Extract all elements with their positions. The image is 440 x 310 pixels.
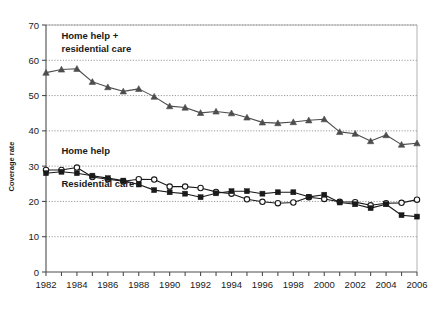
- data-point: [74, 165, 79, 170]
- data-point: [275, 200, 280, 205]
- data-point: [244, 197, 249, 202]
- data-point: [44, 171, 49, 176]
- x-tick-label-1998: 1998: [283, 279, 304, 290]
- data-point: [74, 171, 79, 176]
- y-tick-label-70: 70: [28, 20, 39, 31]
- y-tick-label-20: 20: [28, 196, 39, 207]
- chart-container: 0102030405060701982198419861988199019921…: [0, 0, 440, 310]
- data-point: [198, 185, 203, 190]
- data-point: [183, 191, 188, 196]
- data-point: [383, 132, 389, 138]
- annotation-top-series: Home help +: [61, 30, 118, 41]
- annotation-top-series: residential care: [61, 43, 131, 54]
- y-tick-label-40: 40: [28, 125, 39, 136]
- data-point: [322, 192, 327, 197]
- x-tick-label-1992: 1992: [190, 279, 211, 290]
- data-point: [353, 202, 358, 207]
- data-point: [306, 194, 311, 199]
- annotation-residential-care: Residential care: [61, 178, 134, 189]
- y-tick-label-50: 50: [28, 90, 39, 101]
- annotation-home-help: Home help: [61, 145, 110, 156]
- data-point: [260, 199, 265, 204]
- data-point: [198, 195, 203, 200]
- data-point: [229, 189, 234, 194]
- y-tick-label-30: 30: [28, 161, 39, 172]
- data-point: [415, 214, 420, 219]
- data-point: [182, 184, 187, 189]
- x-tick-label-2000: 2000: [314, 279, 335, 290]
- y-tick-label-60: 60: [28, 55, 39, 66]
- x-tick-label-1990: 1990: [159, 279, 180, 290]
- data-point: [368, 206, 373, 211]
- data-point: [399, 200, 404, 205]
- y-tick-label-10: 10: [28, 231, 39, 242]
- x-tick-label-1988: 1988: [128, 279, 149, 290]
- series-1: [43, 66, 420, 148]
- data-point: [214, 191, 219, 196]
- data-point: [291, 190, 296, 195]
- data-point: [244, 189, 249, 194]
- data-point: [399, 213, 404, 218]
- series-line: [46, 69, 417, 145]
- data-point: [152, 177, 157, 182]
- x-tick-label-1984: 1984: [66, 279, 87, 290]
- x-tick-label-2006: 2006: [406, 279, 427, 290]
- data-point: [260, 191, 265, 196]
- x-tick-label-1982: 1982: [35, 279, 56, 290]
- data-point: [384, 202, 389, 207]
- y-tick-label-0: 0: [34, 267, 39, 278]
- x-tick-label-1986: 1986: [97, 279, 118, 290]
- data-point: [136, 182, 141, 187]
- y-axis-title: Coverage rate: [7, 141, 16, 191]
- x-tick-label-1994: 1994: [221, 279, 242, 290]
- data-point: [414, 197, 419, 202]
- data-point: [167, 184, 172, 189]
- data-point: [275, 190, 280, 195]
- data-point: [59, 169, 64, 174]
- x-tick-label-2002: 2002: [345, 279, 366, 290]
- data-point: [136, 176, 141, 181]
- data-point: [167, 190, 172, 195]
- data-point: [291, 200, 296, 205]
- line-chart: 0102030405060701982198419861988199019921…: [0, 0, 440, 310]
- x-tick-label-2004: 2004: [376, 279, 397, 290]
- x-tick-label-1996: 1996: [252, 279, 273, 290]
- data-point: [152, 188, 157, 193]
- data-point: [136, 86, 142, 92]
- data-point: [151, 93, 157, 99]
- data-point: [337, 200, 342, 205]
